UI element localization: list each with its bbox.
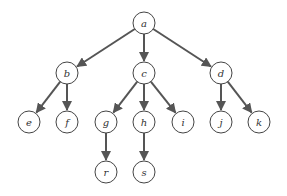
edge-d-k bbox=[228, 82, 252, 113]
node-label: d bbox=[218, 68, 224, 79]
node-a: a bbox=[133, 12, 155, 34]
edge-b-e bbox=[36, 82, 60, 113]
tree-diagram: abcdefghijkrs bbox=[0, 0, 287, 196]
edge-a-b bbox=[77, 29, 135, 66]
node-h: h bbox=[133, 111, 155, 133]
node-r: r bbox=[95, 161, 117, 183]
node-k: k bbox=[248, 111, 270, 133]
node-label: i bbox=[181, 117, 184, 128]
edge-c-i bbox=[151, 82, 176, 113]
node-label: a bbox=[141, 18, 147, 29]
node-j: j bbox=[210, 111, 232, 133]
node-label: k bbox=[256, 117, 262, 128]
node-label: b bbox=[64, 68, 70, 79]
node-d: d bbox=[210, 62, 232, 84]
edges bbox=[36, 29, 251, 160]
node-c: c bbox=[133, 62, 155, 84]
node-label: c bbox=[141, 68, 147, 79]
edge-a-d bbox=[153, 29, 211, 66]
edge-c-g bbox=[113, 82, 137, 113]
node-s: s bbox=[133, 161, 155, 183]
node-label: s bbox=[141, 167, 146, 178]
node-label: h bbox=[141, 117, 147, 128]
node-i: i bbox=[172, 111, 194, 133]
node-e: e bbox=[18, 111, 40, 133]
node-f: f bbox=[56, 111, 78, 133]
node-g: g bbox=[95, 111, 117, 133]
node-b: b bbox=[56, 62, 78, 84]
node-label: g bbox=[103, 117, 109, 128]
node-label: e bbox=[26, 117, 32, 128]
